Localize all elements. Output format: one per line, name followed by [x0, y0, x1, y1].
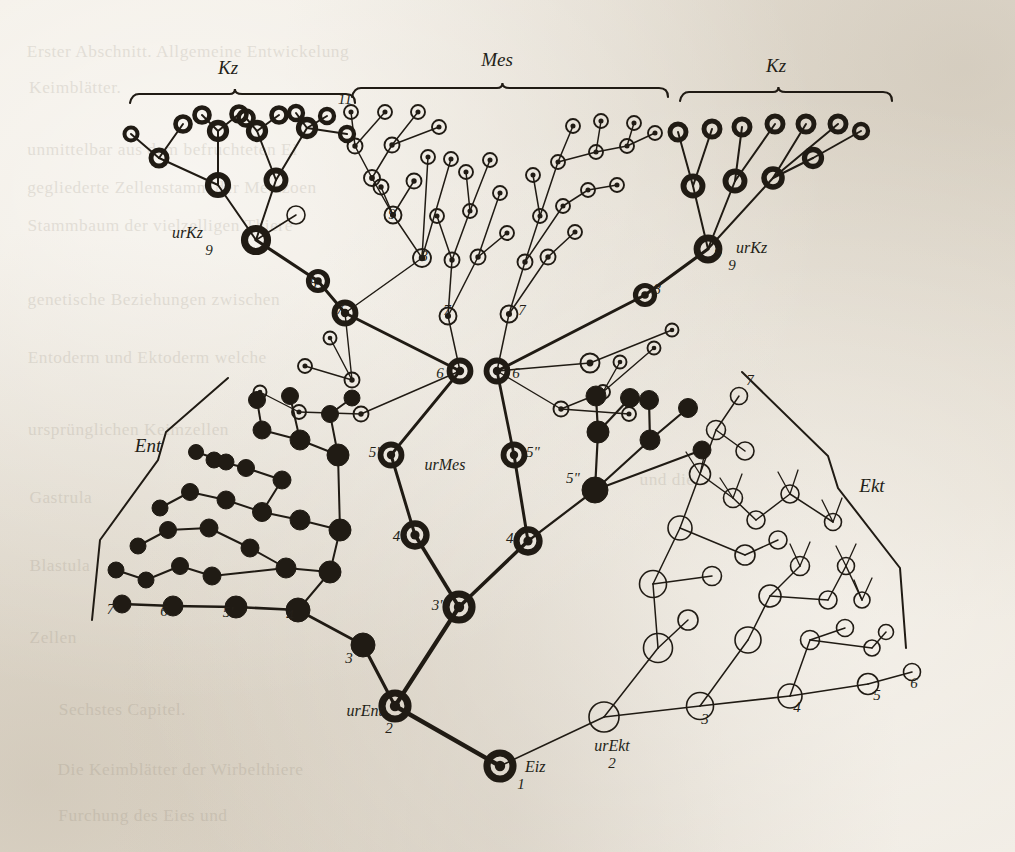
node-ml_16: [430, 209, 444, 223]
node-mrw_6: [666, 324, 679, 337]
node-ef_7: [108, 562, 124, 578]
number-n-mes-8a: 8: [420, 248, 428, 264]
number-n-mes-11: 11: [338, 91, 352, 107]
label-layer: KzMesKzEntEkturKz9urKz9urMesurEnt2urEkt2…: [107, 49, 919, 792]
ektoderm-prong-6b: [862, 578, 872, 600]
node-er_7: [693, 441, 711, 459]
node-er_4: [640, 430, 660, 450]
node-er_2: [586, 386, 606, 406]
node-ef_18: [238, 460, 255, 477]
node-ef_16: [152, 500, 168, 516]
edge-kf_2-kf_3: [653, 528, 680, 584]
node-ml_22: [500, 226, 514, 240]
node-ef_27: [218, 454, 234, 470]
number-n-mes-4p: 4': [393, 528, 405, 544]
edge-layer: [116, 112, 912, 766]
node-mes4p: [404, 524, 427, 547]
node-layer: [108, 105, 921, 779]
node-er_0: [582, 477, 608, 503]
node-ef_15: [182, 484, 199, 501]
node-ml_6: [378, 105, 392, 119]
group-label-mes: Mes: [480, 49, 513, 70]
edge-urent-mes3: [395, 607, 459, 706]
number-n-ekt-6: 6: [910, 675, 918, 691]
node-ef_12: [290, 510, 310, 530]
node-mrw_3: [614, 356, 627, 369]
number-n-mes-4s: 4": [506, 530, 521, 546]
node-ef_6: [138, 572, 154, 588]
edge-mr_8-mr_9: [548, 232, 575, 257]
node-mes6a: [450, 361, 471, 382]
number-n-mes-7b: 7: [518, 302, 527, 318]
node-label-ur-mes: urMes: [425, 456, 466, 473]
ektoderm-prong-1b: [733, 474, 742, 498]
brace-mes: [352, 83, 668, 97]
node-kzr8: [636, 286, 655, 305]
node-ef_8: [200, 519, 218, 537]
number-n-ekt-4: 4: [793, 699, 801, 715]
edge-kf_5-kf_6: [716, 396, 739, 430]
node-er_5: [640, 391, 659, 410]
node-ef_25: [322, 406, 339, 423]
node-ml_20: [471, 250, 486, 265]
node-mr_3: [533, 209, 547, 223]
number-n-mes-5p: 5': [369, 444, 381, 460]
node-ent3: [351, 633, 375, 657]
node-mr_10: [589, 145, 603, 159]
number-n-mes-6b: 6: [512, 365, 520, 381]
diagram-svg: KzMesKzEntEkturKz9urKz9urMesurEnt2urEkt2…: [0, 0, 1015, 852]
node-ml_12: [444, 152, 458, 166]
node-mlw_3: [324, 332, 337, 345]
node-number-eiz: 1: [517, 776, 525, 792]
node-ef_24: [282, 388, 299, 405]
node-mr_2: [518, 255, 533, 270]
edge-mes6a-mlw_4: [361, 371, 460, 414]
edge-mr_5-mr_11: [558, 126, 573, 162]
brace-kz-left: [130, 89, 355, 103]
node-mr_12: [594, 114, 608, 128]
edge-kzl7-ml_1: [345, 258, 422, 313]
number-n-ekt-5: 5: [873, 687, 881, 703]
edge-kf_8-kf_9: [733, 498, 756, 520]
number-n-ent-3: 3: [344, 650, 353, 666]
node-mr_14: [610, 178, 624, 192]
number-n-ent-7p: 7': [107, 601, 119, 617]
edge-ml_17-ml_19: [470, 160, 490, 211]
node-ml_11: [407, 174, 422, 189]
edge-mr_1-mr_8: [509, 257, 548, 314]
number-n-mes-5s: 5": [526, 444, 541, 460]
node-eiz: [487, 753, 513, 779]
node-mr_15: [627, 116, 641, 130]
node-er_1: [587, 421, 609, 443]
node-label-ur-kz-left: urKz: [172, 224, 204, 241]
number-n-ent-6: 6: [160, 603, 168, 619]
node-mr_11: [566, 119, 580, 133]
node-urent: [382, 693, 408, 719]
edge-kf_14-kf_15: [770, 566, 800, 596]
node-ml_10: [374, 180, 389, 195]
node-mes3: [446, 594, 472, 620]
node-ef_14: [217, 491, 235, 509]
node-ef_22: [253, 421, 271, 439]
edge-ml_14-ml_20: [448, 257, 478, 316]
number-n-mes-9a: 9: [388, 206, 396, 222]
number-n-kzl-8: 8: [309, 275, 317, 291]
node-mr_16: [648, 126, 662, 140]
edge-urekt-kf_1: [604, 648, 658, 717]
node-ef_9: [160, 522, 177, 539]
number-n-mes-3p: 3': [431, 597, 444, 613]
node-ef_23: [249, 392, 266, 409]
node-mr_1: [501, 306, 518, 323]
node-label-ur-ekt: urEkt: [594, 737, 630, 754]
edge-ef_2-ef_4: [212, 568, 286, 576]
ektoderm-prong-2a: [778, 472, 790, 494]
node-mrw_4: [648, 342, 661, 355]
number-n-kzr-8: 8: [653, 281, 661, 297]
node-mr_4: [526, 168, 540, 182]
node-ml_7: [385, 138, 400, 153]
node-ef_17: [273, 471, 291, 489]
ektoderm-prong-2b: [790, 470, 798, 494]
number-n-ent-5p: 5': [223, 604, 235, 620]
edge-ml_2-ml_11: [393, 181, 414, 215]
node-number-ur-kz-left: 9: [205, 242, 213, 258]
